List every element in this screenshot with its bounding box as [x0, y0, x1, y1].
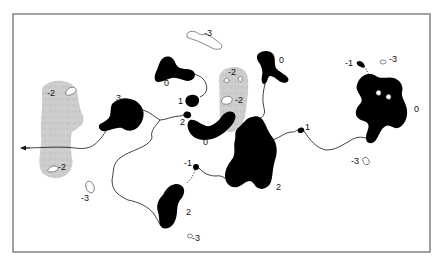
label: 1	[178, 96, 183, 106]
label: -3	[192, 233, 200, 243]
label: -1	[345, 58, 353, 68]
label: 0	[414, 104, 419, 114]
label: 3	[116, 93, 121, 103]
label: 2	[180, 117, 185, 127]
label: -3	[389, 54, 397, 64]
label: 2	[276, 182, 281, 192]
label: -3	[81, 193, 89, 203]
label: -2	[58, 162, 66, 172]
label: -3	[351, 156, 359, 166]
region-minus1-center-bottom	[193, 164, 199, 170]
label: 0	[164, 78, 169, 88]
label: -1	[184, 158, 192, 168]
label: -2	[228, 67, 236, 77]
region-minus3-right-top	[380, 60, 386, 64]
label: -3	[204, 28, 212, 38]
label: 1	[305, 122, 310, 132]
label: -2	[235, 95, 243, 105]
label: 2	[186, 207, 191, 217]
region-diagram: -3 0 -2 3 1 2 0 -2 -2 0 -1 -3 0 1 -3 2 -…	[0, 0, 443, 268]
label: -2	[47, 88, 55, 98]
label: 0	[279, 55, 284, 65]
label: 0	[203, 137, 208, 147]
